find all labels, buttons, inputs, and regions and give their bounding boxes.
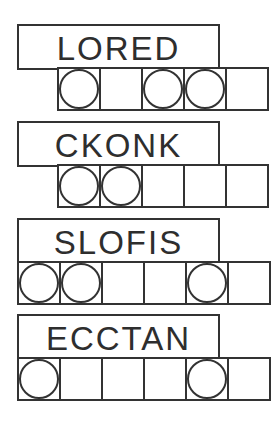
answer-cell[interactable] xyxy=(59,357,103,401)
answer-cell[interactable] xyxy=(101,357,145,401)
circle-marker-icon xyxy=(59,69,99,109)
scrambled-letters: SLOFIS xyxy=(54,224,183,259)
scrambled-letters: CKONK xyxy=(55,127,182,162)
circle-marker-icon xyxy=(19,263,59,303)
answer-cell[interactable] xyxy=(143,357,187,401)
answer-cell[interactable] xyxy=(143,261,187,305)
answer-cell-circled[interactable] xyxy=(99,164,143,208)
answer-cell-circled[interactable] xyxy=(57,164,101,208)
scrambled-word-box: ECCTAN xyxy=(17,314,220,360)
answer-cell-circled[interactable] xyxy=(185,357,229,401)
answer-cell[interactable] xyxy=(141,164,185,208)
circle-marker-icon xyxy=(143,69,183,109)
answer-cell[interactable] xyxy=(99,67,143,111)
circle-marker-icon xyxy=(185,69,225,109)
circle-marker-icon xyxy=(59,166,99,206)
answer-cell[interactable] xyxy=(183,164,227,208)
circle-marker-icon xyxy=(61,263,101,303)
circle-marker-icon xyxy=(19,359,59,399)
scrambled-letters: ECCTAN xyxy=(46,320,191,355)
answer-cell[interactable] xyxy=(227,261,271,305)
answer-cell[interactable] xyxy=(225,67,269,111)
circle-marker-icon xyxy=(101,166,141,206)
answer-cell-circled[interactable] xyxy=(17,261,61,305)
answer-cell[interactable] xyxy=(225,164,269,208)
answer-cells xyxy=(17,261,271,302)
answer-cell-circled[interactable] xyxy=(141,67,185,111)
answer-cell-circled[interactable] xyxy=(17,357,61,401)
scrambled-letters: LORED xyxy=(57,30,181,65)
circle-marker-icon xyxy=(187,263,227,303)
answer-cells xyxy=(57,164,269,205)
scrambled-word-box: LORED xyxy=(17,24,220,70)
answer-cells xyxy=(17,357,271,398)
answer-cell[interactable] xyxy=(101,261,145,305)
scrambled-word-box: CKONK xyxy=(17,121,220,167)
answer-cell-circled[interactable] xyxy=(59,261,103,305)
answer-cells xyxy=(57,67,269,108)
answer-cell-circled[interactable] xyxy=(185,261,229,305)
circle-marker-icon xyxy=(187,359,227,399)
scrambled-word-box: SLOFIS xyxy=(17,218,220,264)
answer-cell-circled[interactable] xyxy=(183,67,227,111)
answer-cell-circled[interactable] xyxy=(57,67,101,111)
answer-cell[interactable] xyxy=(227,357,271,401)
